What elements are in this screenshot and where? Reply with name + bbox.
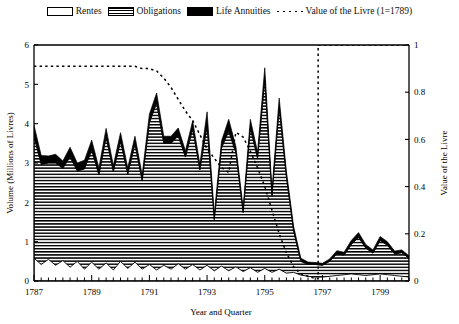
y-tick-label-right: 0.4: [414, 182, 426, 192]
x-axis-title: Year and Quarter: [190, 307, 252, 317]
y-tick-label-right: 0: [414, 276, 419, 286]
x-tick-label: 1787: [25, 287, 44, 297]
x-tick-label: 1795: [256, 287, 275, 297]
x-tick-label: 1793: [198, 287, 217, 297]
y-tick-label-left: 2: [25, 198, 30, 208]
y-tick-label-left: 3: [25, 158, 30, 168]
y-tick-label-left: 6: [25, 40, 30, 50]
y-tick-label-right: 0.6: [414, 135, 426, 145]
y-tick-label-right: 0.8: [414, 87, 426, 97]
y-tick-label-left: 5: [25, 80, 30, 90]
x-tick-label: 1799: [371, 287, 390, 297]
x-tick-label: 1797: [313, 287, 332, 297]
y-tick-label-left: 1: [25, 237, 30, 247]
y-tick-label-right: 0.2: [414, 229, 425, 239]
y-tick-label-left: 0: [25, 276, 30, 286]
y-tick-label-right: 1: [414, 40, 419, 50]
plot-area: 0123456 00.20.40.60.81 17871789179117931…: [25, 40, 426, 297]
x-tick-label: 1789: [83, 287, 102, 297]
x-tick-label: 1791: [140, 287, 158, 297]
y-tick-label-left: 4: [25, 119, 30, 129]
chart-canvas: 0123456 00.20.40.60.81 17871789179117931…: [0, 0, 459, 324]
y-axis-left-title: Volume (Millions of Livres): [5, 112, 15, 214]
y-axis-right-title: Value of the Livre: [439, 130, 449, 195]
